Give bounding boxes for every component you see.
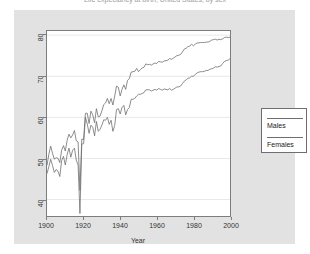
legend-line-females bbox=[267, 137, 303, 138]
x-axis-title: Year bbox=[131, 237, 145, 244]
x-tick-mark bbox=[120, 217, 121, 220]
x-tick-label: 1900 bbox=[38, 222, 54, 229]
y-tick-label: 70 bbox=[38, 75, 45, 83]
series-line-males bbox=[47, 59, 230, 214]
legend-label-males: Males bbox=[267, 122, 286, 129]
x-tick-label: 2000 bbox=[223, 222, 239, 229]
y-tick-label: 80 bbox=[38, 34, 45, 42]
chart-figure: Life expectancy at birth, United States,… bbox=[0, 0, 310, 254]
legend-label-females: Females bbox=[267, 141, 294, 148]
x-tick-mark bbox=[157, 217, 158, 220]
x-tick-label: 1920 bbox=[75, 222, 91, 229]
x-tick-label: 1980 bbox=[186, 222, 202, 229]
chart-title: Life expectancy at birth, United States,… bbox=[0, 0, 310, 4]
x-tick-mark bbox=[231, 217, 232, 220]
x-tick-mark bbox=[46, 217, 47, 220]
x-tick-label: 1940 bbox=[112, 222, 128, 229]
y-tick-label: 40 bbox=[38, 200, 45, 208]
chart-panel: 4050607080190019201940196019802000 Year … bbox=[14, 10, 295, 244]
x-tick-label: 1960 bbox=[149, 222, 165, 229]
data-lines bbox=[47, 31, 230, 216]
plot-area bbox=[46, 30, 231, 217]
y-tick-label: 50 bbox=[38, 158, 45, 166]
chart-legend: Males Females bbox=[261, 108, 307, 153]
x-tick-mark bbox=[194, 217, 195, 220]
legend-line-males bbox=[267, 118, 303, 119]
y-tick-label: 60 bbox=[38, 117, 45, 125]
x-tick-mark bbox=[83, 217, 84, 220]
series-line-females bbox=[47, 37, 230, 190]
